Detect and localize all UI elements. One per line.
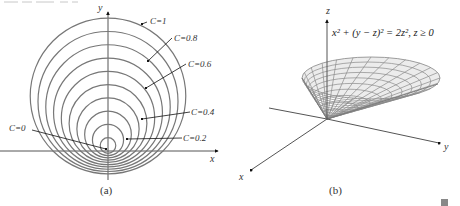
label-c-0-4: C=0.4: [191, 107, 215, 117]
z-axis-label: z: [325, 5, 330, 16]
label-c-0-8: C=0.8: [174, 33, 198, 43]
panel-a: x y C=1 C=0.8 C=0.6 C=0.4 C=0.2 C=0 (a): [0, 2, 218, 197]
label-c-0: C=0: [9, 123, 26, 133]
x-axis-label: x: [209, 153, 215, 164]
y-axis-3d: [327, 119, 439, 143]
y-axis-label: y: [97, 2, 103, 13]
end-of-figure-marker: [441, 199, 448, 206]
label-c-1: C=1: [150, 16, 167, 26]
panel-b-caption: (b): [329, 184, 342, 197]
panel-b: z y x x² + (y − z)² = 2z², z ≥ 0 (b): [238, 5, 449, 197]
y-axis-label-3d: y: [443, 141, 449, 152]
equation: x² + (y − z)² = 2z², z ≥ 0: [331, 27, 435, 39]
x-axis-3d: [251, 119, 327, 170]
panel-a-caption: (a): [100, 184, 113, 197]
x-axis-back: [269, 108, 327, 119]
label-c-0-2: C=0.2: [183, 133, 207, 143]
figure: x y C=1 C=0.8 C=0.6 C=0.4 C=0.2 C=0 (a) …: [0, 0, 460, 206]
x-axis-label-3d: x: [238, 171, 244, 182]
cone-surface: [302, 57, 440, 119]
label-c-0-6: C=0.6: [188, 59, 212, 69]
